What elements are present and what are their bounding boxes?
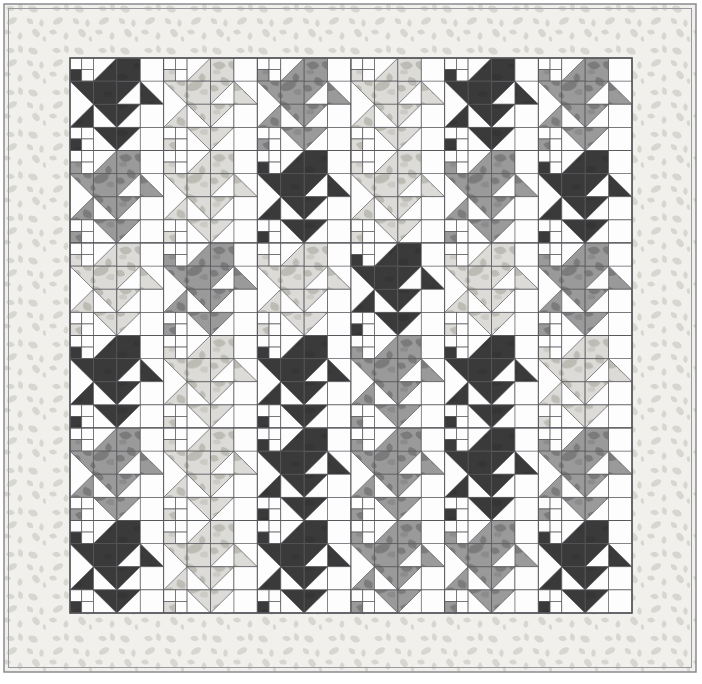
quilt-unit (304, 428, 327, 451)
quilt-unit (456, 162, 468, 174)
quilt-unit (269, 162, 281, 174)
quilt-unit (550, 324, 562, 336)
quilt-unit (175, 220, 187, 232)
quilt-unit (585, 521, 608, 544)
quilt-unit (351, 497, 363, 509)
quilt-unit (93, 359, 116, 382)
quilt-unit (70, 428, 82, 440)
quilt-unit (234, 58, 257, 81)
quilt-unit (70, 497, 82, 509)
quilt-unit (164, 255, 176, 267)
quilt-unit (82, 428, 94, 440)
quilt-unit (515, 405, 538, 428)
quilt-unit (363, 416, 375, 428)
quilt-unit (562, 544, 585, 567)
quilt-unit (82, 497, 94, 509)
quilt-unit (456, 601, 468, 613)
quilt-unit (117, 58, 140, 81)
quilt-unit (328, 336, 351, 359)
quilt-unit (468, 266, 491, 289)
quilt-unit (70, 521, 82, 533)
quilt-unit (538, 601, 550, 613)
quilt-unit (363, 336, 375, 348)
quilt-unit (374, 266, 397, 289)
puppy-block (538, 336, 632, 429)
quilt-unit (398, 243, 421, 266)
quilt-unit (468, 174, 491, 197)
quilt-unit (374, 544, 397, 567)
quilt-unit (164, 231, 176, 243)
quilt-unit (164, 347, 176, 359)
puppy-block (351, 243, 445, 336)
quilt-unit (257, 70, 269, 82)
quilt-unit (374, 359, 397, 382)
quilt-unit (187, 359, 210, 382)
quilt-unit (140, 127, 163, 150)
quilt-unit (550, 231, 562, 243)
quilt-unit (257, 312, 269, 324)
puppy-block (257, 151, 351, 244)
puppy-block (257, 428, 351, 521)
quilt-unit (269, 70, 281, 82)
quilt-unit (304, 151, 327, 174)
quilt-unit (70, 139, 82, 151)
quilt-unit (93, 451, 116, 474)
quilt-unit (351, 521, 363, 533)
quilt-unit (445, 428, 457, 440)
quilt-unit (445, 590, 457, 602)
quilt-unit (421, 336, 444, 359)
quilt-unit (374, 174, 397, 197)
quilt-unit (82, 336, 94, 348)
quilt-unit (562, 451, 585, 474)
quilt-unit (351, 440, 363, 452)
quilt-unit (164, 151, 176, 163)
puppy-block (351, 521, 445, 614)
quilt-unit (515, 243, 538, 266)
quilt-unit (281, 174, 304, 197)
quilt-unit (257, 497, 269, 509)
quilt-unit (609, 312, 632, 335)
quilt-unit (456, 440, 468, 452)
quilt-unit (550, 405, 562, 417)
puppy-block (164, 58, 258, 151)
quilt-unit (363, 428, 375, 440)
quilt-unit (117, 521, 140, 544)
quilt-unit (140, 104, 163, 127)
quilt-unit (363, 139, 375, 151)
quilt-unit (269, 416, 281, 428)
quilt-unit (445, 243, 457, 255)
quilt-unit (363, 532, 375, 544)
quilt-unit (269, 255, 281, 267)
quilt-unit (328, 289, 351, 312)
quilt-unit (363, 497, 375, 509)
quilt-unit (257, 58, 269, 70)
quilt-unit (234, 590, 257, 613)
quilt-unit (269, 509, 281, 521)
quilt-unit (234, 220, 257, 243)
quilt-unit (269, 440, 281, 452)
quilt-unit (234, 567, 257, 590)
quilt-unit (445, 440, 457, 452)
quilt-unit (175, 428, 187, 440)
quilt-unit (351, 312, 363, 324)
quilt-unit (609, 58, 632, 81)
quilt-unit (515, 521, 538, 544)
quilt-unit (363, 127, 375, 139)
quilt-unit (538, 405, 550, 417)
quilt-unit (140, 428, 163, 451)
quilt-unit (328, 104, 351, 127)
quilt-unit (328, 151, 351, 174)
quilt-unit (456, 243, 468, 255)
quilt-unit (550, 532, 562, 544)
quilt-unit (351, 428, 363, 440)
quilt-unit (175, 601, 187, 613)
puppy-block (70, 243, 164, 336)
quilt-unit (304, 243, 327, 266)
quilt-unit (351, 532, 363, 544)
quilt-unit (234, 497, 257, 520)
quilt-unit (538, 243, 550, 255)
quilt-unit (234, 312, 257, 335)
quilt-unit (82, 324, 94, 336)
quilt-unit (456, 324, 468, 336)
quilt-unit (175, 347, 187, 359)
